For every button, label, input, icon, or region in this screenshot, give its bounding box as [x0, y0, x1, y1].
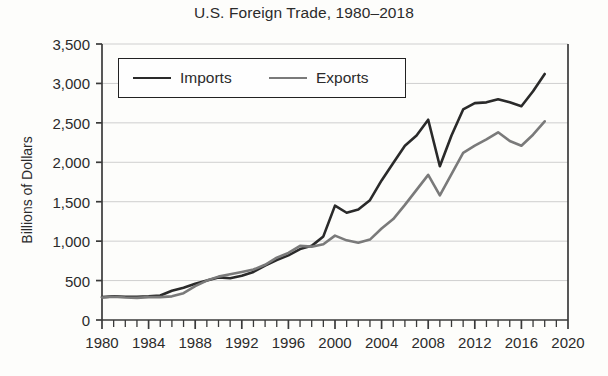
- data-series-lines: [102, 74, 545, 298]
- legend-label-imports: Imports: [180, 69, 232, 87]
- x-axis-tick-label: 2012: [458, 334, 491, 351]
- x-axis-tick-label: 1988: [179, 334, 212, 351]
- x-axis-tick-label: 1984: [132, 334, 165, 351]
- x-axis-tick-label: 1992: [225, 334, 258, 351]
- x-axis-tick-label: 2016: [505, 334, 538, 351]
- chart-figure: U.S. Foreign Trade, 1980–2018 05001,0001…: [0, 0, 608, 376]
- x-axis-tick-label: 1996: [272, 334, 305, 351]
- legend-line-swatch-imports: [133, 77, 171, 79]
- legend-entry-exports: Exports: [269, 69, 369, 87]
- x-axis-tick-label: 2008: [412, 334, 445, 351]
- y-axis-tick-label: 0: [24, 312, 90, 329]
- legend-entry-imports: Imports: [133, 69, 232, 87]
- plot-area: [0, 0, 608, 376]
- x-axis-tick-label: 2000: [318, 334, 351, 351]
- y-axis-tick-label: 3,500: [24, 36, 90, 53]
- legend-line-swatch-exports: [269, 77, 307, 79]
- legend-label-exports: Exports: [316, 69, 369, 87]
- y-axis-ticks: [96, 44, 102, 320]
- x-axis-tick-label: 2004: [365, 334, 398, 351]
- y-axis-title: Billions of Dollars: [19, 105, 35, 275]
- x-axis-tick-label: 2020: [551, 334, 584, 351]
- x-minor-ticks: [102, 320, 568, 329]
- x-axis-tick-label: 1980: [85, 334, 118, 351]
- y-axis-tick-label: 3,000: [24, 75, 90, 92]
- chart-legend: Imports Exports: [118, 58, 406, 98]
